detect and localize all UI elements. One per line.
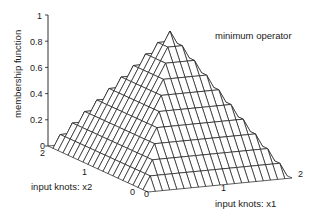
x2-tick-0: 0	[130, 187, 135, 197]
x2-tick-2: 2	[40, 148, 45, 158]
z-axis-label: membership function	[12, 30, 23, 118]
x2-axis-label: input knots: x2	[31, 181, 92, 192]
z-tick-0-4: 0.4	[30, 89, 43, 99]
x1-tick-0: 0	[144, 189, 149, 199]
z-tick-0-2: 0.2	[30, 115, 43, 125]
annotation-label: minimum operator	[215, 30, 292, 41]
z-axis	[45, 15, 48, 146]
z-tick-0-6: 0.6	[30, 63, 43, 73]
z-tick-0-8: 0.8	[30, 37, 43, 47]
x1-tick-2: 2	[298, 169, 303, 179]
x1-axis-label: input knots: x1	[215, 198, 276, 209]
z-tick-1: 1	[37, 11, 42, 21]
x2-tick-1: 1	[82, 167, 87, 177]
x1-tick-1: 1	[221, 183, 226, 193]
